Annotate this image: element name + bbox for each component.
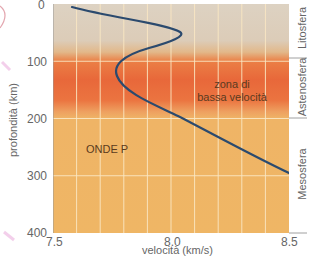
annotation-line-2: bassa velocità bbox=[182, 91, 282, 104]
y-tick-300: 300 bbox=[27, 169, 47, 183]
low-velocity-zone-annotation: zona di bassa velocità bbox=[182, 78, 282, 104]
y-tick-0: 0 bbox=[38, 0, 45, 12]
wave-type-label: ONDE P bbox=[86, 143, 128, 156]
plot-area bbox=[53, 4, 289, 233]
y-tick-400: 400 bbox=[27, 226, 47, 240]
x-tick-8-5: 8.5 bbox=[281, 235, 298, 249]
layer-label-astenosfera: Astenosfera bbox=[296, 47, 308, 127]
y-tick-200: 200 bbox=[27, 112, 47, 126]
annotation-line-1: zona di bbox=[182, 78, 282, 91]
x-axis-label: velocità (km/s) bbox=[142, 244, 213, 256]
velocity-depth-chart: 0 100 200 300 400 7.5 8.0 8.5 profondità… bbox=[0, 0, 309, 266]
y-tick-100: 100 bbox=[27, 55, 47, 69]
y-axis-label: profondità (km) bbox=[7, 80, 19, 160]
layer-label-mesosfera: Mesosfera bbox=[296, 140, 308, 208]
x-tick-7-5: 7.5 bbox=[46, 235, 63, 249]
